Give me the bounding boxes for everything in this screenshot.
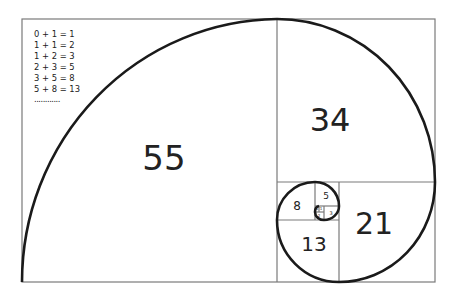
equation: 1 + 2 = 3 <box>34 51 80 62</box>
label-1b: 1 <box>320 207 323 211</box>
label-3: 3 <box>329 211 332 216</box>
equation: 0 + 1 = 1 <box>34 29 80 40</box>
label-55: 55 <box>142 141 185 175</box>
equation: 3 + 5 = 8 <box>34 73 80 84</box>
label-5: 5 <box>323 192 329 201</box>
equation: 1 + 1 = 2 <box>34 40 80 51</box>
label-1a: 1 <box>316 207 319 211</box>
label-21: 21 <box>355 209 393 239</box>
label-2: 2 <box>318 214 321 218</box>
outer-frame <box>22 19 435 282</box>
equation: 2 + 3 = 5 <box>34 62 80 73</box>
label-13: 13 <box>301 234 326 254</box>
spiral-curve <box>22 19 435 282</box>
label-34: 34 <box>310 104 351 136</box>
equation-list: 0 + 1 = 1 1 + 1 = 2 1 + 2 = 3 2 + 3 = 5 … <box>34 29 80 104</box>
ellipsis: ............ <box>34 95 80 104</box>
label-8: 8 <box>293 200 301 212</box>
square-grid <box>22 19 435 282</box>
